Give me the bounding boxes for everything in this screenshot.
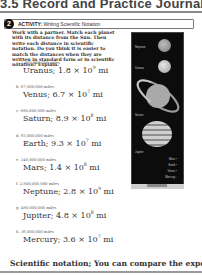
header-divider: [0, 11, 202, 13]
exercise-answer: Neptune; 2.8 × 109 mi: [23, 186, 134, 197]
jupiter-icon: [142, 121, 172, 147]
exercise-item: g. 480,000,000 miles Jupiter; 4.8 × 108 …: [16, 205, 134, 229]
exercise-answer: Uranus; 1.8 × 109 mi: [23, 65, 134, 76]
saturn-icon: [132, 75, 183, 117]
exercise-item: a. 1,800,000,000 miles Uranus; 1.8 × 109…: [16, 60, 134, 84]
exercise-answer: Mercury; 3.6 × 107 mi: [23, 234, 134, 245]
activity-title: ACTIVITY: Writing Scientific Notation: [18, 20, 100, 28]
activity-name: Writing Scientific Notation: [43, 21, 100, 27]
written-answer: Scientific notation; You can compare the…: [10, 259, 202, 269]
activity-label: ACTIVITY:: [18, 21, 42, 27]
sun-label: [147, 184, 167, 187]
neptune-icon: [158, 39, 171, 52]
exercise-answer: Earth; 9.3 × 107 mi: [23, 138, 134, 149]
exercise-item: b. 67,000,000 miles Venus; 6.7 × 107 mi: [16, 84, 134, 108]
legend-mars: Mars •: [169, 157, 177, 161]
exercise-answer: Mars; 1.4 × 108 mi: [23, 162, 134, 173]
exercise-item: h. 36,000,000 miles Mercury; 3.6 × 107 m…: [16, 229, 134, 253]
legend-venus: Venus •: [167, 169, 177, 173]
planets-image: Neptune Uranus Saturn Jupiter Mars • Ear…: [131, 32, 184, 186]
activity-number-badge: 2: [4, 19, 14, 29]
exercise-list: a. 1,800,000,000 miles Uranus; 1.8 × 109…: [16, 60, 134, 254]
exercise-answer: Saturn; 8.9 × 108 mi: [23, 113, 134, 124]
legend-mercury: Mercury ·: [165, 175, 177, 179]
planet-label-jupiter: Jupiter: [135, 150, 143, 154]
bottom-divider: [0, 271, 202, 273]
exercise-item: d. 93,000,000 miles Earth; 9.3 × 107 mi: [16, 133, 134, 157]
page-title: 3.5 Record and Practice Journal: [0, 0, 202, 10]
planet-label-neptune: Neptune: [135, 45, 146, 49]
exercise-answer: Venus; 6.7 × 107 mi: [23, 89, 134, 100]
activity-bar: 2 ACTIVITY: Writing Scientific Notation: [4, 19, 194, 29]
planet-label-uranus: Uranus: [135, 66, 144, 70]
exercise-item: c. 890,000,000 miles Saturn; 8.9 × 108 m…: [16, 108, 134, 132]
exercise-item: e. 140,000,000 miles Mars; 1.4 × 108 mi: [16, 157, 134, 181]
legend-earth: Earth •: [169, 163, 177, 167]
exercise-item: f. 2,800,000,000 miles Neptune; 2.8 × 10…: [16, 181, 134, 205]
planet-label-saturn: Saturn: [135, 113, 143, 117]
uranus-icon: [158, 60, 171, 73]
exercise-answer: Jupiter; 4.8 × 108 mi: [23, 210, 134, 221]
